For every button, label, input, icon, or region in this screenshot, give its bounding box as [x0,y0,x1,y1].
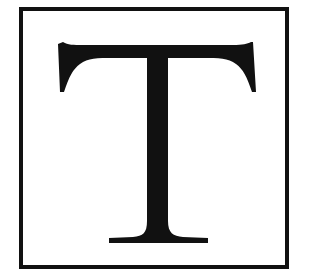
letter-t-icon [23,11,285,265]
letter-frame [19,7,289,269]
